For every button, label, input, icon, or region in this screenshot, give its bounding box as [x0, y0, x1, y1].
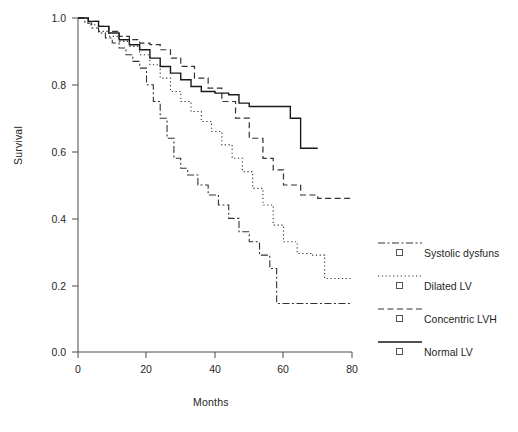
x-axis-label: Months	[193, 396, 229, 408]
y-tick-label: 0.0	[32, 346, 66, 358]
legend-item-dilated-lv[interactable]: Dilated LV	[378, 271, 518, 304]
legend-line-solid	[378, 339, 422, 345]
legend-marker-open-square	[396, 348, 403, 355]
y-axis-label: Survival	[12, 126, 24, 165]
y-tick-label: 0.2	[32, 280, 66, 292]
legend: Systolic dysfuns Dilated LV Concentric L…	[378, 238, 518, 370]
legend-label: Normal LV	[424, 346, 473, 358]
x-tick-label: 40	[200, 363, 230, 375]
legend-line-dashed	[378, 306, 422, 312]
y-tick-label: 1.0	[32, 12, 66, 24]
y-tick-label: 0.6	[32, 146, 66, 158]
x-tick-label: 0	[63, 363, 93, 375]
y-axis-ticks	[72, 18, 78, 352]
legend-line-dotted	[378, 273, 422, 279]
x-axis-ticks	[78, 352, 352, 358]
legend-label: Dilated LV	[424, 280, 472, 292]
y-tick-label: 0.8	[32, 79, 66, 91]
legend-item-normal-lv[interactable]: Normal LV	[378, 337, 518, 370]
y-tick-label: 0.4	[32, 213, 66, 225]
legend-label: Systolic dysfuns	[424, 247, 499, 259]
axes	[78, 18, 352, 352]
x-tick-label: 20	[131, 363, 161, 375]
survival-curve	[78, 18, 352, 304]
survival-curve	[78, 18, 352, 198]
x-tick-label: 60	[268, 363, 298, 375]
legend-marker-open-square	[396, 249, 403, 256]
survival-curves	[78, 18, 352, 304]
legend-item-systolic-dysfunction[interactable]: Systolic dysfuns	[378, 238, 518, 271]
legend-item-concentric-lvh[interactable]: Concentric LVH	[378, 304, 518, 337]
survival-curve	[78, 18, 318, 148]
legend-label: Concentric LVH	[424, 313, 497, 325]
survival-chart-figure: Survival Months 1.0 0.8 0.6 0.4 0.2 0.0 …	[0, 0, 518, 432]
legend-line-dash-dot	[378, 240, 422, 246]
legend-marker-open-square	[396, 282, 403, 289]
x-tick-label: 80	[337, 363, 367, 375]
legend-marker-open-square	[396, 315, 403, 322]
